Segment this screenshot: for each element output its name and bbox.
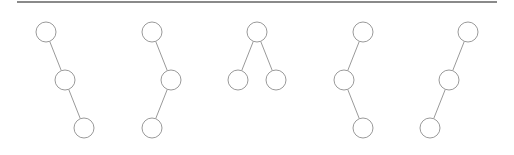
tree-edge [69,89,81,118]
tree-edge [348,41,360,70]
tree-edge [348,89,360,118]
tree-node [420,118,440,138]
diagram-canvas [0,0,514,155]
tree-edge [434,89,446,118]
tree-4-left-right [334,22,373,138]
root-node [36,22,56,42]
tree-node [55,70,75,90]
root-node [142,22,162,42]
tree-5-left-left [420,22,478,138]
tree-edge [50,41,62,70]
tree-edge [453,41,465,70]
root-node [458,22,478,42]
tree-edge [242,41,254,70]
tree-edge [156,41,168,70]
tree-node [142,118,162,138]
root-node [353,22,373,42]
tree-edge [156,89,168,118]
tree-node [161,70,181,90]
tree-3-balanced [228,22,286,90]
tree-edge [261,41,273,70]
root-node [247,22,267,42]
tree-node [353,118,373,138]
tree-node [439,70,459,90]
tree-node [74,118,94,138]
tree-node [228,70,248,90]
tree-2-right-left [142,22,181,138]
tree-node [334,70,354,90]
binary-tree-shapes-diagram [0,0,514,155]
tree-node [266,70,286,90]
tree-1-right-right [36,22,94,138]
